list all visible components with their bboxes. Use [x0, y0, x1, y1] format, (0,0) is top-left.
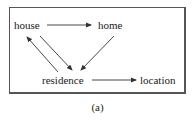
edge-residence-house [27, 37, 58, 72]
node-location: location [140, 74, 175, 86]
node-home: home [98, 19, 122, 31]
figure-caption: (a) [0, 101, 195, 113]
edge-house-residence [40, 36, 72, 70]
node-house: house [14, 19, 40, 31]
node-residence: residence [42, 74, 84, 86]
edge-home-residence [81, 36, 114, 70]
